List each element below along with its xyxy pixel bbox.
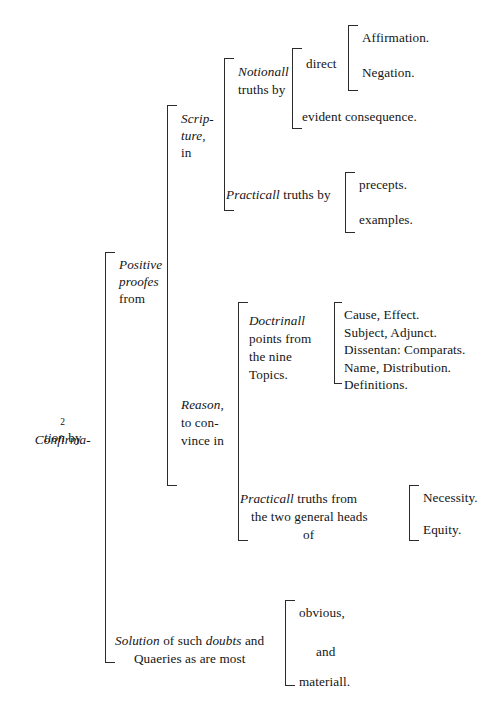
practicall-reason-line2: the two general heads (251, 508, 368, 526)
solution-text-a: of such (160, 633, 206, 648)
solution-line1: Solution of such doubts and (115, 632, 264, 650)
equity-label: Equity. (423, 521, 461, 539)
topic-item: Definitions. (344, 376, 466, 394)
practicall-reason-line3: of (303, 526, 314, 544)
brace-solution (285, 600, 295, 686)
root-label-italic-2: tion (44, 430, 65, 445)
brace-doctrinall-topics (334, 302, 342, 384)
brace-root (105, 252, 115, 663)
notionall-italic: Notionall (238, 63, 289, 81)
positive-proofes-line2: proofes (119, 273, 159, 291)
topic-item: Subject, Adjunct. (344, 324, 466, 342)
scripture-line3: in (181, 144, 191, 162)
notionall-roman: truths by (238, 81, 285, 99)
root-label-roman: by (65, 430, 82, 445)
brace-practicall-reason (409, 485, 419, 541)
reason-line3: vince in (181, 432, 224, 450)
and-label: and (316, 643, 335, 661)
evident-consequence-label: evident consequence. (302, 108, 417, 126)
doctrinall-line2: points from (249, 330, 311, 348)
direct-label: direct (306, 55, 337, 73)
precepts-label: precepts. (359, 176, 407, 194)
negation-label: Negation. (362, 64, 415, 82)
practicall-reason-line1: Practicall truths from (240, 490, 357, 508)
reason-line1: Reason, (181, 396, 224, 414)
positive-proofes-line3: from (119, 290, 145, 308)
solution-word-doubts: doubts (206, 633, 242, 648)
examples-label: examples. (359, 211, 413, 229)
doctrinall-line3: the nine (249, 348, 292, 366)
topic-item: Cause, Effect. (344, 306, 466, 324)
necessity-label: Necessity. (423, 489, 478, 507)
brace-positive-proofes (167, 105, 177, 486)
scripture-line2: ture, (181, 127, 206, 145)
topics-list: Cause, Effect. Subject, Adjunct. Dissent… (344, 306, 466, 394)
brace-notionall (292, 48, 302, 129)
scripture-line1: Scrip- (181, 110, 214, 128)
practicall-scripture-italic: Practicall (226, 187, 280, 202)
solution-text-b: and (242, 633, 265, 648)
practicall-reason-roman: truths from (294, 491, 357, 506)
brace-direct (348, 25, 358, 91)
materiall-label: materiall. (299, 673, 350, 691)
root-label-line2: tion by (10, 411, 102, 464)
outline-diagram-page: 2 Confirma- tion by Positive proofes fro… (0, 0, 491, 728)
practicall-scripture-roman: truths by (280, 187, 331, 202)
affirmation-label: Affirmation. (362, 29, 429, 47)
solution-line2: Quaeries as are most (134, 650, 246, 668)
topic-item: Dissentan: Comparats. (344, 341, 466, 359)
practicall-reason-italic: Practicall (240, 491, 294, 506)
topic-item: Name, Distribution. (344, 359, 466, 377)
brace-practicall-scripture (345, 172, 355, 233)
doctrinall-line1: Doctrinall (249, 312, 305, 330)
doctrinall-line4: Topics. (249, 366, 288, 384)
positive-proofes-line1: Positive (119, 256, 162, 274)
practicall-scripture-label: Practicall truths by (226, 186, 331, 204)
reason-line2: to con- (181, 414, 219, 432)
obvious-label: obvious, (299, 604, 345, 622)
solution-word-solution: Solution (115, 633, 160, 648)
